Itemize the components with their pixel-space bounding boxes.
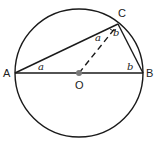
geometry-diagram: A B C O a b a b [0,0,155,147]
angle-label-at-c-left: a [95,32,101,43]
angle-label-at-a: a [38,61,44,72]
center-dot [76,70,82,76]
label-c-point: C [118,7,126,19]
label-a-point: A [3,67,11,79]
label-b-point: B [146,67,153,79]
angle-label-at-b: b [127,61,133,72]
label-o-point: O [75,79,84,91]
angle-label-at-c-right: b [113,27,119,38]
